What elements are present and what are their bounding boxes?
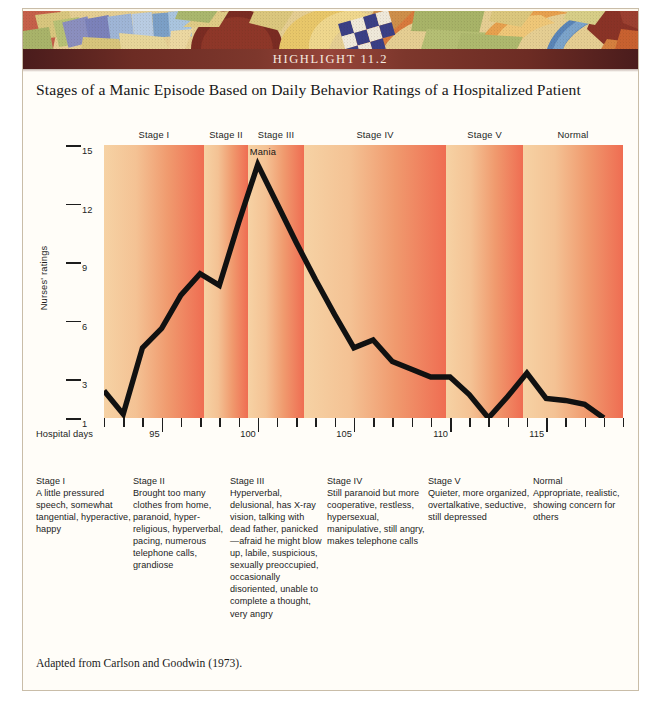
x-tick-minor — [585, 418, 586, 427]
x-tick-label-100: 100 — [240, 429, 257, 439]
stage-description-body: Still paranoid but more cooperative, res… — [327, 488, 425, 546]
x-tick-minor — [604, 418, 605, 427]
x-tick-minor — [431, 418, 432, 427]
x-axis: 95100105110115 — [104, 418, 629, 448]
x-tick-minor — [219, 418, 220, 427]
x-tick-minor — [412, 418, 413, 427]
x-tick-minor — [277, 418, 278, 427]
mania-annotation: Mania — [250, 147, 276, 157]
x-tick-label-110: 110 — [433, 429, 449, 439]
x-tick-minor — [488, 418, 489, 427]
stage-description-heading: Stage IV — [327, 475, 426, 487]
x-tick-minor — [104, 418, 105, 427]
stage-description-1: Stage IA little pressured speech, somewh… — [36, 475, 131, 535]
x-tick-minor — [181, 418, 182, 427]
plot-area — [104, 145, 623, 418]
banner-shadow — [23, 69, 638, 72]
y-axis-label: Nurses' ratings — [39, 218, 49, 338]
stage-description-body: Quieter, more organized, overtalkative, … — [428, 488, 529, 522]
page-title: Stages of a Manic Episode Based on Daily… — [36, 79, 596, 101]
x-tick-label-95: 95 — [149, 429, 160, 439]
stage-description-heading: Stage III — [230, 475, 325, 487]
x-tick-minor — [296, 418, 297, 427]
x-tick-minor — [623, 418, 624, 427]
stage-descriptions: Stage IA little pressured speech, somewh… — [36, 475, 631, 650]
stage-description-heading: Stage V — [428, 475, 531, 487]
x-tick-minor — [527, 418, 528, 427]
x-tick-major-105 — [354, 418, 356, 432]
highlight-box-frame: HIGHLIGHT 11.2 Stages of a Manic Episode… — [22, 8, 639, 691]
stage-description-2: Stage IIBrought too many clothes from ho… — [133, 475, 228, 571]
x-tick-minor — [315, 418, 316, 427]
x-axis-label: Hospital days — [36, 429, 93, 439]
stage-header-4: Stage IV — [304, 127, 446, 143]
x-tick-major-110 — [450, 418, 452, 432]
stage-description-5: Stage VQuieter, more organized, overtalk… — [428, 475, 531, 523]
stage-header-1: Stage I — [104, 127, 204, 143]
x-tick-minor — [392, 418, 393, 427]
stage-description-body: Hyperverbal, delusional, has X-ray visio… — [230, 488, 322, 618]
stage-description-heading: Stage I — [36, 475, 131, 487]
x-tick-minor — [123, 418, 124, 427]
stage-description-body: Appropriate, realistic, showing concern … — [533, 488, 620, 522]
stage-header-6: Normal — [523, 127, 623, 143]
stage-description-heading: Normal — [533, 475, 631, 487]
x-tick-minor — [565, 418, 566, 427]
x-tick-label-105: 105 — [336, 429, 353, 439]
stage-description-4: Stage IVStill paranoid but more cooperat… — [327, 475, 426, 547]
x-tick-label-115: 115 — [529, 429, 545, 439]
stage-header-3: Stage III — [248, 127, 304, 143]
x-tick-minor — [239, 418, 240, 427]
stage-description-6: NormalAppropriate, realistic, showing co… — [533, 475, 631, 523]
x-tick-minor — [200, 418, 201, 427]
x-tick-minor — [335, 418, 336, 427]
nurses-ratings-line — [104, 145, 623, 418]
stage-header-5: Stage V — [446, 127, 523, 143]
stage-description-heading: Stage II — [133, 475, 228, 487]
stage-description-body: Brought too many clothes from home, para… — [133, 488, 223, 570]
x-tick-minor — [508, 418, 509, 427]
x-tick-major-115 — [546, 418, 548, 432]
x-tick-minor — [469, 418, 470, 427]
x-tick-minor — [142, 418, 143, 427]
chart-figure: Stage IStage IIStage IIIStage IVStage VN… — [36, 127, 631, 472]
y-axis: Nurses' ratings 15129631 — [36, 145, 104, 427]
stage-description-body: A little pressured speech, somewhat tang… — [36, 488, 131, 534]
decorative-mosaic-banner — [23, 9, 638, 49]
stage-header-2: Stage II — [204, 127, 248, 143]
highlight-banner: HIGHLIGHT 11.2 — [23, 49, 638, 69]
source-attribution: Adapted from Carlson and Goodwin (1973). — [36, 657, 242, 670]
x-tick-major-100 — [258, 418, 260, 432]
x-tick-minor — [373, 418, 374, 427]
x-tick-major-95 — [162, 418, 164, 432]
page-root: HIGHLIGHT 11.2 Stages of a Manic Episode… — [0, 0, 661, 715]
stage-description-3: Stage IIIHyperverbal, delusional, has X-… — [230, 475, 325, 620]
